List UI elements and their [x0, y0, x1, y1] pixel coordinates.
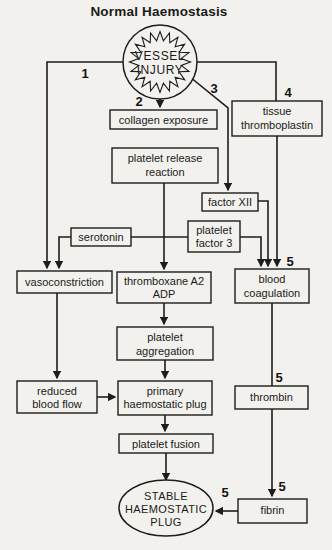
node-thrombin: thrombin	[235, 386, 308, 409]
node-thromboxane-a2-adp: thromboxane A2 ADP	[117, 272, 211, 303]
edge-factor-xii-blood-coagulation	[258, 201, 268, 266]
reduced-blood-flow-label-2: blood flow	[32, 398, 82, 410]
thromboxane-label-1: thromboxane A2	[124, 275, 204, 287]
node-platelet-aggregation: platelet aggregation	[117, 327, 213, 360]
fibrin-label: fibrin	[261, 504, 285, 516]
platelet-aggregation-label-1: platelet	[147, 331, 182, 343]
edge-pf3-blood-coagulation	[240, 237, 261, 266]
node-collagen-exposure: collagen exposure	[110, 110, 217, 129]
platelet-factor-3-label-1: platelet	[196, 224, 231, 236]
blood-coagulation-label-1: blood	[259, 273, 286, 285]
platelet-aggregation-label-2: aggregation	[136, 345, 194, 357]
platelet-fusion-label: platelet fusion	[132, 438, 200, 450]
platelet-release-label-2: reaction	[145, 166, 184, 178]
node-tissue-thromboplastin: tissue thromboplastin	[232, 101, 322, 136]
step-1-label: 1	[81, 66, 88, 81]
step-5-label-stable-plug: 5	[221, 485, 228, 500]
primary-plug-label-1: primary	[147, 385, 184, 397]
reduced-blood-flow-label-1: reduced	[37, 385, 77, 397]
node-vasoconstriction: vasoconstriction	[17, 271, 112, 293]
platelet-factor-3-label-2: factor 3	[196, 237, 233, 249]
flowchart-svg: Normal Haemostasis 1 2 3 4 5 5 5 5	[0, 0, 332, 550]
factor-xii-label: factor XII	[208, 196, 252, 208]
collagen-exposure-label: collagen exposure	[119, 114, 208, 126]
edge-serotonin-vasoconstriction	[59, 237, 71, 268]
node-platelet-fusion: platelet fusion	[119, 434, 213, 453]
blood-coagulation-label-2: coagulation	[244, 287, 300, 299]
tissue-thromboplastin-label-1: tissue	[263, 105, 292, 117]
stable-plug-label-1: STABLE	[144, 490, 188, 502]
node-serotonin: serotonin	[71, 228, 131, 246]
haemostasis-diagram: Normal Haemostasis 1 2 3 4 5 5 5 5	[0, 0, 332, 550]
tissue-thromboplastin-label-2: thromboplastin	[241, 119, 313, 131]
node-factor-xii: factor XII	[202, 193, 258, 211]
node-primary-haemostatic-plug: primary haemostatic plug	[118, 381, 212, 415]
node-stable-haemostatic-plug: STABLE HAEMOSTATIC PLUG	[119, 480, 213, 536]
thrombin-label: thrombin	[250, 391, 293, 403]
node-fibrin: fibrin	[238, 499, 307, 523]
edge-injury-tissue-thromboplastin	[197, 62, 276, 101]
step-4-label: 4	[284, 85, 292, 100]
node-platelet-release-reaction: platelet release reaction	[112, 148, 218, 183]
node-reduced-blood-flow: reduced blood flow	[17, 381, 97, 413]
stable-plug-label-2: HAEMOSTATIC	[125, 503, 207, 515]
step-5-label-fibrin: 5	[278, 479, 285, 494]
thromboxane-label-2: ADP	[153, 288, 176, 300]
step-3-label: 3	[210, 81, 217, 96]
vasoconstriction-label: vasoconstriction	[25, 276, 104, 288]
serotonin-label: serotonin	[78, 231, 123, 243]
vessel-injury-label-1: VESSEL	[135, 49, 185, 63]
stable-plug-label-3: PLUG	[150, 516, 182, 528]
step-2-label: 2	[135, 94, 142, 109]
step-5-label-thrombin: 5	[275, 370, 282, 385]
step-5-label-coagulation: 5	[286, 254, 293, 269]
node-blood-coagulation: blood coagulation	[235, 269, 309, 303]
node-vessel-injury: VESSEL INJURY	[123, 25, 197, 99]
vessel-injury-label-2: INJURY	[137, 63, 184, 77]
platelet-release-label-1: platelet release	[128, 152, 203, 164]
node-platelet-factor-3: platelet factor 3	[188, 221, 240, 252]
primary-plug-label-2: haemostatic plug	[123, 398, 206, 410]
diagram-title: Normal Haemostasis	[90, 4, 227, 19]
